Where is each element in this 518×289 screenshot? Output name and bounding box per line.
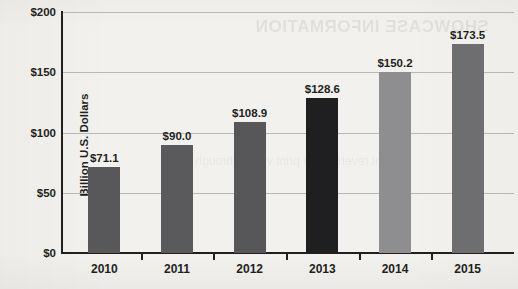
y-axis-tick-label: $0: [10, 247, 56, 259]
y-axis-tick-label: $50: [10, 187, 56, 199]
bar-chart: Billion U.S. Dollars $0$50$100$150$200 $…: [0, 0, 518, 289]
x-axis-tick: [359, 253, 361, 260]
x-axis-label-2015: 2015: [454, 262, 481, 276]
bar-2011[interactable]: $90.0: [161, 145, 193, 253]
x-axis-label-2010: 2010: [91, 262, 118, 276]
x-axis-tick: [213, 253, 215, 260]
x-axis-tick: [431, 253, 433, 260]
x-axis-tick: [286, 253, 288, 260]
bar-value-label: $173.5: [450, 29, 485, 41]
bar-value-label: $128.6: [305, 83, 340, 95]
bar-2014[interactable]: $150.2: [379, 72, 411, 253]
bar-value-label: $150.2: [377, 57, 412, 69]
bar-value-label: $108.9: [232, 107, 267, 119]
y-axis-tick-label: $150: [10, 66, 56, 78]
x-axis-label-2012: 2012: [236, 262, 263, 276]
bar-2013[interactable]: $128.6: [306, 98, 338, 253]
x-axis-tick: [141, 253, 143, 260]
y-axis-tick-label: $200: [10, 6, 56, 18]
bar-value-label: $71.1: [90, 152, 119, 164]
plot-area: $71.1$90.0$108.9$128.6$150.2$173.5: [62, 12, 514, 253]
bar-2012[interactable]: $108.9: [234, 122, 266, 253]
x-axis-label-2014: 2014: [382, 262, 409, 276]
y-axis-tick-label: $100: [10, 127, 56, 139]
x-axis-label-2013: 2013: [309, 262, 336, 276]
x-axis-label-2011: 2011: [164, 262, 190, 276]
bar-2015[interactable]: $173.5: [452, 44, 484, 253]
bar-2010[interactable]: $71.1: [88, 167, 120, 253]
bar-value-label: $90.0: [163, 130, 192, 142]
